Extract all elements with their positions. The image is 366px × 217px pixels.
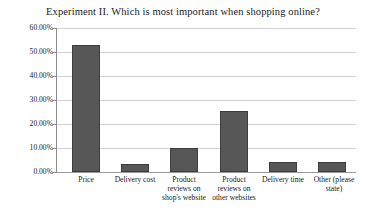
gridline-10 (57, 148, 356, 149)
y-tick-label-0: 0.00% (5, 168, 53, 176)
x-label-other-line-2: state) (303, 184, 365, 193)
x-axis-category-labels: Price Delivery cost Product reviews on s… (57, 175, 356, 217)
bar-price (72, 45, 100, 172)
y-tick-label-10: 10.00% (5, 144, 53, 152)
gridline-30 (57, 100, 356, 101)
bar-chart: Experiment II. Which is most important w… (0, 0, 366, 217)
x-axis-baseline (57, 172, 356, 173)
x-label-other-websites-line-2: reviews on (201, 184, 267, 193)
y-tick-label-60: 60.00% (5, 24, 53, 32)
y-tick-label-30: 30.00% (5, 96, 53, 104)
bar-delivery-cost (121, 164, 149, 172)
y-tick-label-20: 20.00% (5, 120, 53, 128)
x-label-other-please-state: Other (please state) (303, 175, 365, 193)
bar-product-reviews-other-websites (220, 111, 248, 172)
bar-product-reviews-shop-website (170, 148, 198, 172)
y-axis-tick-labels: 60.00% 50.00% 40.00% 30.00% 20.00% 10.00… (0, 0, 53, 217)
bar-delivery-time (269, 162, 297, 172)
x-label-other-line-1: Other (please (303, 175, 365, 184)
bar-other-please-state (318, 162, 346, 172)
gridline-40 (57, 76, 356, 77)
chart-title: Experiment II. Which is most important w… (0, 6, 366, 17)
gridline-50 (57, 52, 356, 53)
gridline-60 (57, 28, 356, 29)
plot-area (57, 28, 356, 172)
y-tick-label-40: 40.00% (5, 72, 53, 80)
x-label-other-websites-line-3: other websites (201, 193, 267, 202)
gridline-20 (57, 124, 356, 125)
y-tick-label-50: 50.00% (5, 48, 53, 56)
